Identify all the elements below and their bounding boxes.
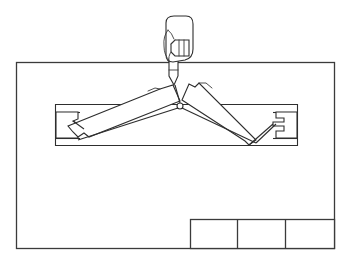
title-block-border: [191, 220, 335, 249]
title-block: [191, 220, 335, 249]
right-slider: [273, 112, 297, 138]
figure-svg: [0, 0, 353, 264]
technical-drawing-canvas: [0, 0, 353, 264]
right-slider-body: [273, 112, 297, 138]
fingers-group: [171, 40, 189, 56]
hand-icon: [164, 16, 193, 62]
